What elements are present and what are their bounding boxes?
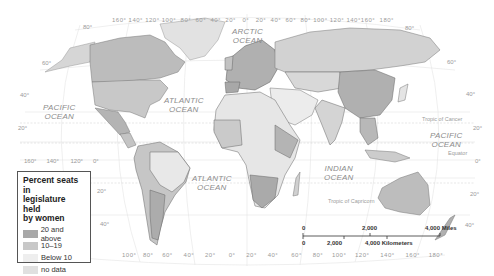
tropic-of-capricorn-label: Tropic of Capricorn — [328, 198, 375, 204]
legend-swatch — [23, 266, 38, 274]
argentina — [150, 190, 165, 240]
scale-miles-zero: 0 — [302, 225, 305, 231]
scale-km-end: 4,000 Kilometers — [365, 240, 413, 246]
legend-swatch — [23, 242, 38, 250]
lat-right-0: 0° — [475, 158, 481, 164]
ocean-label-arctic: ARCTICOCEAN — [232, 27, 263, 45]
lat-left-80: 80° — [83, 24, 92, 30]
central-asia — [285, 72, 342, 92]
west-africa — [214, 120, 242, 148]
longitude-labels-top: 160° 140° 120° 100° 80° 60° 40° 20° 0° 2… — [112, 17, 394, 23]
ocean-label-pacific-west: PACIFICOCEAN — [43, 103, 75, 121]
japan — [398, 84, 408, 102]
scale-km-mid: 2,000 — [327, 240, 342, 246]
map-legend: Percent seats in legislature held by wom… — [17, 171, 91, 263]
legend-item-20-above: 20 and above — [23, 228, 85, 240]
legend-item-below-10: Below 10 — [23, 252, 85, 264]
southeast-asia — [360, 118, 378, 145]
legend-swatch — [23, 254, 38, 262]
russia — [275, 28, 440, 72]
lat-left-60: 60° — [42, 60, 51, 66]
lat-left-40s: 40° — [100, 221, 109, 227]
lat-right-20s: 20° — [470, 191, 479, 197]
scale-km-zero: 0 — [302, 240, 305, 246]
lat-left-20s: 20° — [97, 188, 106, 194]
australia — [378, 172, 430, 215]
legend-title: Percent seats in legislature held by wom… — [23, 176, 85, 224]
lat-right-20n: 20° — [473, 125, 482, 131]
ocean-label-atlantic-north: ATLANTICOCEAN — [164, 96, 204, 114]
ocean-label-atlantic-south: ATLANTICOCEAN — [192, 174, 232, 192]
legend-swatch — [23, 230, 38, 238]
legend-item-no-data: no data — [23, 264, 85, 276]
ocean-label-pacific-east: PACIFICOCEAN — [430, 131, 462, 149]
central-america — [120, 133, 136, 148]
india — [315, 100, 345, 145]
madagascar — [293, 172, 300, 196]
lat-left-40: 40° — [20, 92, 29, 98]
ocean-label-indian: INDIANOCEAN — [324, 164, 353, 182]
lat-right-60: 60° — [447, 59, 456, 65]
longitude-labels-left-mid: 160° 140° 120° 0° — [24, 158, 99, 164]
equator-label: Equator — [448, 150, 467, 156]
lat-right-40: 40° — [466, 91, 475, 97]
lat-right-80: 80° — [405, 25, 414, 31]
iberia — [225, 82, 240, 93]
tropic-of-cancer-label: Tropic of Cancer — [422, 116, 462, 122]
scale-bar: 0 2,000 4,000 Miles 0 2,000 4,000 Kilome… — [300, 225, 450, 255]
scale-miles-mid: 2,000 — [362, 225, 377, 231]
lat-left-20n: 20° — [18, 125, 27, 131]
lat-right-40s: 40° — [465, 222, 474, 228]
scale-miles-end: 4,000 Miles — [425, 225, 457, 231]
china — [338, 70, 395, 118]
uk — [225, 56, 233, 70]
